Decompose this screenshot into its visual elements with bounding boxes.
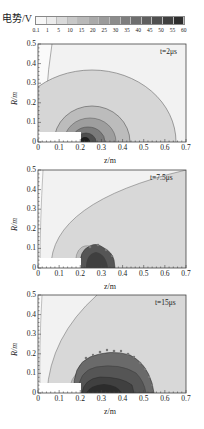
- x-tick-label: 0.4: [118, 270, 127, 278]
- colorbar-segment: [89, 17, 100, 24]
- colorbar-segment: [174, 17, 185, 24]
- colorbar-segment: [78, 17, 89, 24]
- colorbar-segment: [152, 17, 163, 24]
- colorbar-tick-label: 1: [46, 27, 49, 34]
- time-label: t=2μs: [160, 47, 177, 56]
- colorbar-segment: [163, 17, 174, 24]
- x-tick-label: 0: [36, 144, 40, 152]
- x-tick-label: 0.6: [160, 395, 169, 403]
- x-tick-label: 0.1: [54, 144, 63, 152]
- x-tick-label: 0.4: [118, 395, 127, 403]
- x-axis-label: z/m: [104, 407, 116, 416]
- x-tick-label: 0: [36, 395, 40, 403]
- x-tick-label: 0.2: [76, 270, 85, 278]
- colorbar-segment: [47, 17, 58, 24]
- colorbar-segment: [68, 17, 79, 24]
- time-label: t=7.5μs: [150, 173, 173, 182]
- colorbar-tick-label: 60: [181, 27, 187, 34]
- x-tick-label: 0.2: [76, 144, 85, 152]
- y-tick-label: 0.2: [22, 225, 36, 233]
- colorbar-tick-label: 45: [147, 27, 153, 34]
- colorbar-segment: [142, 17, 153, 24]
- colorbar-segment: [57, 17, 68, 24]
- time-label: t=15μs: [155, 298, 176, 307]
- y-axis-label: R/m: [10, 218, 19, 231]
- x-tick-label: 0.7: [181, 395, 190, 403]
- colorbar-title: 电势/V: [2, 13, 32, 25]
- colorbar-segment: [99, 17, 110, 24]
- y-tick-label: 0: [22, 264, 36, 272]
- colorbar-tick-label: 50: [158, 27, 164, 34]
- x-tick-label: 0.7: [181, 144, 190, 152]
- x-tick-label: 0.6: [160, 270, 169, 278]
- y-tick-label: 0.5: [22, 166, 36, 174]
- y-tick-label: 0.5: [22, 40, 36, 48]
- panel-t2us: t=2μs R/m z/m 00.10.20.30.40.5 00.10.20.…: [0, 36, 204, 164]
- y-tick-label: 0.1: [22, 369, 36, 377]
- y-tick-label: 0: [22, 138, 36, 146]
- y-tick-label: 0.4: [22, 311, 36, 319]
- colorbar-tick-label: 55: [170, 27, 176, 34]
- panel-t7-5us: t=7.5μs R/m z/m 00.10.20.30.40.5 00.10.2…: [0, 162, 204, 290]
- y-tick-label: 0.4: [22, 186, 36, 194]
- x-tick-label: 0.5: [139, 395, 148, 403]
- y-tick-label: 0.1: [22, 244, 36, 252]
- y-tick-label: 0: [22, 389, 36, 397]
- x-tick-label: 0.1: [54, 395, 63, 403]
- colorbar: [35, 16, 185, 25]
- y-axis-label: R/m: [10, 92, 19, 105]
- colorbar-tick-label: 30: [113, 27, 119, 34]
- colorbar-tick-label: 5: [57, 27, 60, 34]
- colorbar-tick-label: 40: [136, 27, 142, 34]
- y-tick-label: 0.3: [22, 330, 36, 338]
- colorbar-tick-label: 20: [90, 27, 96, 34]
- x-tick-label: 0.6: [160, 144, 169, 152]
- colorbar-segment: [110, 17, 121, 24]
- y-axis-label: R/m: [10, 343, 19, 356]
- colorbar-tick-label: 0.1: [33, 27, 40, 34]
- colorbar-tick-labels: 0.1151015202530354045505560: [33, 27, 189, 35]
- colorbar-tick-label: 25: [101, 27, 107, 34]
- colorbar-tick-label: 35: [124, 27, 130, 34]
- x-tick-label: 0.5: [139, 270, 148, 278]
- x-tick-label: 0.1: [54, 270, 63, 278]
- y-tick-label: 0.1: [22, 118, 36, 126]
- x-tick-label: 0.2: [76, 395, 85, 403]
- colorbar-segment: [36, 17, 47, 24]
- x-tick-label: 0: [36, 270, 40, 278]
- x-tick-label: 0.4: [118, 144, 127, 152]
- panel-t15us: t=15μs R/m z/m 00.10.20.30.40.5 00.10.20…: [0, 287, 204, 415]
- x-tick-label: 0.7: [181, 270, 190, 278]
- y-tick-label: 0.3: [22, 79, 36, 87]
- y-tick-label: 0.3: [22, 205, 36, 213]
- y-tick-label: 0.2: [22, 99, 36, 107]
- x-tick-label: 0.3: [97, 144, 106, 152]
- x-tick-label: 0.3: [97, 395, 106, 403]
- x-tick-label: 0.3: [97, 270, 106, 278]
- colorbar-tick-label: 15: [79, 27, 85, 34]
- y-tick-label: 0.5: [22, 291, 36, 299]
- colorbar-segment: [121, 17, 132, 24]
- y-tick-label: 0.2: [22, 350, 36, 358]
- colorbar-segment: [131, 17, 142, 24]
- x-tick-label: 0.5: [139, 144, 148, 152]
- y-tick-label: 0.4: [22, 60, 36, 68]
- colorbar-tick-label: 10: [67, 27, 73, 34]
